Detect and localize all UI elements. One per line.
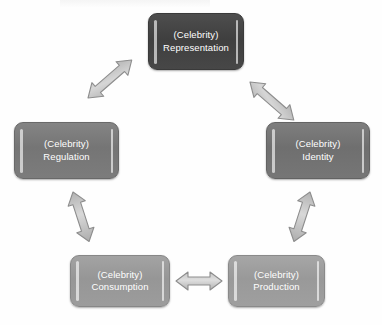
node-regulation[interactable]: (Celebrity) Regulation bbox=[14, 122, 119, 179]
node-prefix: (Celebrity) bbox=[296, 138, 341, 151]
bevel-highlight-left bbox=[20, 129, 23, 173]
node-prefix: (Celebrity) bbox=[174, 29, 219, 42]
node-label: Consumption bbox=[91, 281, 148, 294]
node-consumption[interactable]: (Celebrity) Consumption bbox=[70, 255, 170, 307]
node-production[interactable]: (Celebrity) Production bbox=[228, 255, 325, 307]
bevel-highlight-right bbox=[236, 20, 239, 64]
node-identity[interactable]: (Celebrity) Identity bbox=[266, 122, 370, 179]
bevel-highlight-left bbox=[234, 261, 237, 301]
bevel-highlight-left bbox=[272, 129, 275, 173]
node-label: Regulation bbox=[43, 151, 89, 164]
bevel-highlight-right bbox=[317, 261, 320, 301]
connector-production-consumption bbox=[176, 272, 222, 290]
node-representation[interactable]: (Celebrity) Representation bbox=[148, 13, 244, 70]
node-label: Representation bbox=[163, 42, 229, 55]
bevel-highlight-left bbox=[76, 261, 79, 301]
node-prefix: (Celebrity) bbox=[98, 269, 143, 282]
connector-consumption-regulation bbox=[64, 189, 97, 244]
node-prefix: (Celebrity) bbox=[44, 138, 89, 151]
bevel-highlight-left bbox=[154, 20, 157, 64]
bevel-highlight-right bbox=[362, 129, 365, 173]
node-prefix: (Celebrity) bbox=[254, 269, 299, 282]
node-label: Production bbox=[253, 281, 299, 294]
bevel-highlight-right bbox=[162, 261, 165, 301]
connector-regulation-representation bbox=[82, 53, 138, 105]
node-label: Identity bbox=[302, 151, 333, 164]
bevel-highlight-right bbox=[111, 129, 114, 173]
connector-representation-identity bbox=[244, 75, 300, 127]
connector-identity-production bbox=[285, 189, 318, 244]
diagram-canvas: (Celebrity) Representation (Celebrity) I… bbox=[0, 0, 382, 325]
